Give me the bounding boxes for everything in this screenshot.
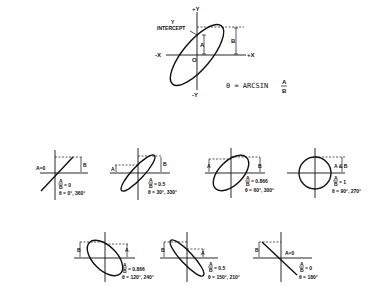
svg-text:= 0.5: = 0.5	[154, 181, 165, 187]
example-180-deg: B A=0 A B = 0 θ = 180°	[253, 232, 318, 282]
svg-text:= 0: = 0	[64, 182, 71, 188]
svg-text:B: B	[255, 247, 259, 253]
intercept-label: INTERCEPT	[157, 25, 185, 31]
neg-y-label: -Y	[192, 92, 198, 98]
line-trace	[262, 242, 297, 275]
example-90-deg: A & B A B = 1 θ = 90°, 270°	[287, 148, 361, 198]
svg-text:A: A	[111, 166, 115, 172]
svg-text:= 0.866: = 0.866	[128, 266, 145, 272]
svg-text:B: B	[334, 181, 338, 187]
svg-text:B: B	[300, 267, 304, 273]
example-150-deg: B A A B = 0.5 θ = 150°, 210°	[160, 232, 240, 282]
example-60-deg: A B A B = 0.866 θ = 60°, 300°	[205, 148, 274, 198]
svg-text:θ = 180°: θ = 180°	[299, 274, 318, 280]
svg-text:θ = 60°, 300°: θ = 60°, 300°	[245, 187, 274, 193]
svg-text:A=0: A=0	[285, 250, 295, 256]
svg-text:θ = 90°, 270°: θ = 90°, 270°	[332, 188, 361, 194]
svg-text:B: B	[161, 247, 165, 253]
lissajous-phase-diagram: +Y -Y +X -X O Y INTERCEPT A B θ = ARCSIN…	[0, 0, 380, 286]
pos-x-label: +X	[247, 52, 255, 58]
svg-text:A=0: A=0	[36, 165, 46, 171]
formula-numerator: A	[282, 79, 287, 85]
origin-label: O	[192, 57, 197, 63]
formula-denominator: B	[282, 88, 287, 94]
svg-text:B: B	[83, 162, 87, 168]
svg-text:= 0.5: = 0.5	[214, 265, 225, 271]
neg-x-label: -X	[155, 52, 161, 58]
svg-text:B: B	[258, 163, 262, 169]
svg-text:B: B	[163, 161, 167, 167]
svg-text:B: B	[209, 267, 213, 273]
svg-text:θ = 120°, 240°: θ = 120°, 240°	[122, 274, 154, 280]
a-label: A	[200, 42, 205, 48]
b-label: B	[231, 38, 236, 44]
svg-text:θ = 30°, 330°: θ = 30°, 330°	[148, 189, 177, 195]
svg-text:= 0: = 0	[305, 265, 312, 271]
svg-text:A: A	[201, 250, 205, 256]
svg-text:A: A	[125, 247, 129, 253]
main-diagram: +Y -Y +X -X O Y INTERCEPT A B θ = ARCSIN…	[155, 6, 287, 98]
svg-text:B: B	[77, 247, 81, 253]
svg-text:A & B: A & B	[334, 163, 348, 169]
formula-text: θ = ARCSIN	[226, 82, 268, 90]
svg-text:= 0.866: = 0.866	[251, 178, 268, 184]
example-30-deg: A B A B = 0.5 θ = 30°, 330°	[110, 148, 177, 200]
intercept-pointer	[190, 31, 197, 35]
pos-y-label: +Y	[192, 6, 200, 12]
example-0-deg: A=0 B A B = 0 θ = 0°, 360°	[36, 150, 88, 200]
example-120-deg: B A A B = 0.866 θ = 120°, 240°	[74, 232, 154, 282]
svg-text:θ = 150°, 210°: θ = 150°, 210°	[208, 274, 240, 280]
svg-text:θ = 0°, 360°: θ = 0°, 360°	[59, 190, 85, 196]
svg-text:A: A	[207, 163, 211, 169]
svg-text:= 1: = 1	[339, 179, 346, 185]
